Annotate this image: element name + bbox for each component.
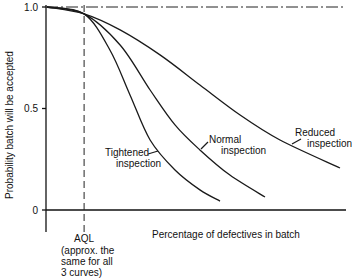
aql-label: AQL: [74, 233, 94, 244]
oc-curve-chart: 1.0 0.5 0 Probability batch will be acce…: [0, 0, 352, 279]
series-label-tightened-line-2: inspection: [116, 158, 161, 169]
series-label-tightened-line-1: Tightened: [105, 147, 149, 158]
aql-note-line-2: same for all: [61, 256, 113, 267]
aql-note-line-1: (approx. the: [61, 245, 115, 256]
series-label-reduced-line-2: inspection: [307, 138, 352, 149]
leader-normal: [201, 142, 208, 149]
series-label-normal-line-2: inspection: [221, 145, 266, 156]
leader-reduced: [292, 139, 301, 144]
series-label-reduced-line-1: Reduced: [295, 127, 335, 138]
series-label-normal-line-1: Normal: [209, 134, 241, 145]
series-line-tightened-inspection: [47, 7, 220, 201]
y-tick-label-0-5: 0.5: [24, 103, 38, 114]
y-tick-label-1: 1.0: [24, 2, 38, 13]
y-tick-label-0: 0: [32, 205, 38, 216]
x-axis-label: Percentage of defectives in batch: [152, 229, 300, 240]
leader-tightened: [148, 151, 158, 154]
aql-note-line-3: 3 curves): [61, 267, 102, 278]
y-axis-label: Probability batch will be accepted: [4, 51, 15, 199]
